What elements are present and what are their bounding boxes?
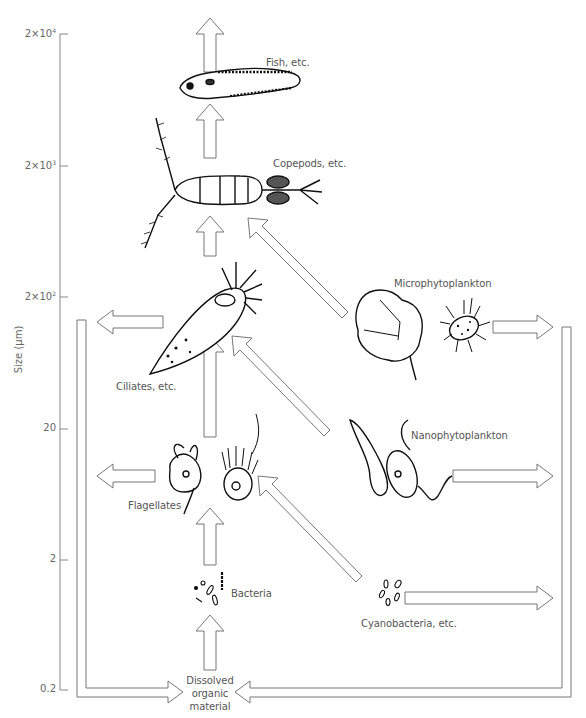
right-recycling-loop <box>235 327 571 703</box>
y-axis-label: Size (µm) <box>13 320 24 380</box>
y-tick-2: 2 <box>0 553 56 564</box>
arrow-fish-up <box>196 18 224 72</box>
label-nanophytoplankton: Nanophytoplankton <box>411 430 508 441</box>
label-flagellates: Flagellates <box>128 500 181 511</box>
arrow-nanophyto-to-right-loop <box>453 464 553 488</box>
food-web-diagram <box>0 0 586 718</box>
dom-line-1: Dissolved <box>184 674 236 687</box>
arrow-ciliates-to-left-loop <box>97 310 163 334</box>
arrow-dom-to-bacteria <box>196 615 224 670</box>
label-fish: Fish, etc. <box>266 57 309 68</box>
dom-line-2: organic <box>184 687 236 700</box>
label-ciliates: Ciliates, etc. <box>116 381 176 392</box>
y-tick-0-2: 0.2 <box>0 683 56 694</box>
arrow-cyanobacteria-to-flagellates <box>258 476 362 582</box>
copepod-illustration <box>141 118 322 248</box>
label-microphytoplankton: Microphytoplankton <box>394 278 492 289</box>
y-tick-2e3: 2×103 <box>0 159 56 171</box>
arrow-microphyto-to-copepods <box>248 218 348 318</box>
dom-line-3: material <box>184 700 236 713</box>
arrow-nanophyto-to-ciliates <box>232 336 330 436</box>
fish-illustration <box>180 68 300 98</box>
label-dissolved-organic-material: Dissolved organic material <box>184 674 236 713</box>
label-cyanobacteria: Cyanobacteria, etc. <box>361 618 457 629</box>
label-copepods: Copepods, etc. <box>273 158 346 169</box>
arrow-bacteria-to-flagellates <box>196 508 224 565</box>
y-tick-20: 20 <box>0 422 56 433</box>
arrow-cyanobacteria-to-right-loop <box>405 586 553 610</box>
arrow-microphyto-to-right-loop <box>493 315 553 339</box>
label-bacteria: Bacteria <box>231 588 272 599</box>
microphytoplankton-illustration <box>356 290 490 380</box>
left-recycling-loop <box>77 320 183 703</box>
cyanobacteria-illustration <box>378 579 402 605</box>
arrow-ciliates-to-copepods <box>196 216 224 256</box>
y-tick-2e4: 2×104 <box>0 27 56 39</box>
arrow-flagellates-to-left-loop <box>97 464 155 488</box>
y-tick-2e2: 2×102 <box>0 290 56 302</box>
bacteria-illustration <box>195 572 223 605</box>
y-axis <box>60 34 68 690</box>
arrow-copepods-to-fish <box>196 104 224 158</box>
